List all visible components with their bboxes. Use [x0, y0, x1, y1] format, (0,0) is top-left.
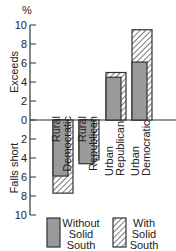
category-label: UrbanDemocratic [129, 120, 152, 176]
y-label-exceeds: Exceeds [8, 50, 20, 93]
y-tick-label: 8 [21, 190, 27, 202]
y-tick-label: 6 [21, 171, 27, 183]
y-tick-label: 2 [21, 95, 27, 107]
category-label: UrbanRepublican [103, 121, 126, 176]
chart-canvas: % 0246810246810 Exceeds Falls short Rura… [0, 0, 176, 251]
category-labels: RuralDemocraticRuralRepublicanUrbanRepub… [50, 116, 152, 176]
svg-text:Democratic: Democratic [61, 116, 73, 172]
legend: Without Solid South With Solid South [47, 217, 158, 251]
y-tick-label: 8 [21, 38, 27, 50]
legend-swatch-gray [47, 218, 60, 247]
legend-text: South [130, 239, 159, 251]
legend-item-without-solid-south: Without Solid South [47, 217, 100, 251]
bar-without-solid-south [132, 62, 147, 120]
bar-without-solid-south [106, 77, 121, 120]
y-tick-label: 0 [21, 114, 27, 126]
legend-swatch-hatched [113, 218, 126, 247]
svg-text:Republican: Republican [114, 121, 126, 176]
y-tick-label: 4 [21, 76, 27, 88]
bar-group [132, 30, 152, 120]
bar-group [106, 73, 126, 121]
y-tick-label: 10 [15, 19, 27, 31]
svg-text:Democratic: Democratic [140, 120, 152, 176]
y-tick-label: 4 [21, 152, 27, 164]
legend-item-with-solid-south: With Solid South [113, 217, 158, 251]
svg-text:Republican: Republican [87, 116, 99, 171]
unit-label: % [22, 4, 32, 16]
y-tick-label: 6 [21, 57, 27, 69]
legend-text: South [67, 239, 96, 251]
y-label-falls-short: Falls short [8, 143, 20, 194]
y-tick-label: 2 [21, 133, 27, 145]
y-tick-label: 10 [15, 209, 27, 221]
